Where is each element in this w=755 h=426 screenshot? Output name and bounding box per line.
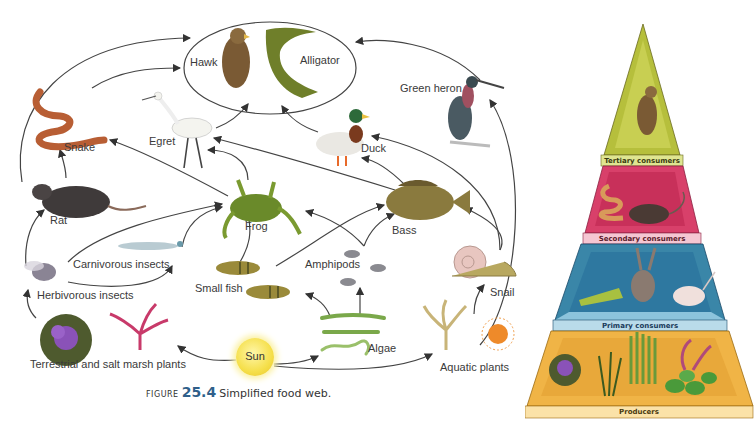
amphipods-label: Amphipods xyxy=(305,258,360,270)
hawk-label: Hawk xyxy=(190,56,218,68)
food-web-diagram: Sun Hawk Alligator Green heron Snake Egr… xyxy=(0,0,530,426)
trophic-pyramid: Tertiary consumers Secondary consumers P… xyxy=(525,0,755,426)
alligator-label: Alligator xyxy=(300,54,340,66)
bass-illustration xyxy=(386,180,470,220)
bass-label: Bass xyxy=(392,224,416,236)
tier-label-producers: Producers xyxy=(525,408,753,416)
aquatic-plants-label: Aquatic plants xyxy=(440,361,509,373)
egret-illustration xyxy=(142,92,212,168)
sun-label: Sun xyxy=(236,350,274,362)
green-heron-label: Green heron xyxy=(400,82,462,94)
terrestrial-plants-label: Terrestrial and salt marsh plants xyxy=(30,358,186,370)
algae-label: Algae xyxy=(368,342,396,354)
frog-label: Frog xyxy=(245,220,268,232)
caption-text: Simplified food web. xyxy=(219,387,331,400)
duck-label: Duck xyxy=(361,142,386,154)
herbivorous-insects-label: Herbivorous insects xyxy=(37,289,134,301)
pyramid-shape xyxy=(525,0,755,426)
duck-illustration xyxy=(316,109,370,166)
tier-label-secondary: Secondary consumers xyxy=(583,235,701,243)
terrestrial-plants-illustration xyxy=(40,304,168,366)
snail-label: Snail xyxy=(490,286,514,298)
carnivorous-insects-label: Carnivorous insects xyxy=(73,258,170,270)
caption-prefix: Figure xyxy=(146,390,179,399)
rat-label: Rat xyxy=(50,214,67,226)
carnivorous-insect-illustration xyxy=(118,241,183,250)
snake-illustration xyxy=(36,92,104,147)
figure-caption: Figure25.4Simplified food web. xyxy=(146,384,331,400)
small-fish-label: Small fish xyxy=(195,282,243,294)
rat-illustration xyxy=(32,184,146,218)
hawk-illustration xyxy=(222,28,250,88)
herbivorous-insect-illustration xyxy=(24,261,56,281)
snake-label: Snake xyxy=(64,141,95,153)
egret-label: Egret xyxy=(149,135,175,147)
sun-node: Sun xyxy=(236,338,274,376)
snail-illustration xyxy=(452,246,516,278)
tier-label-tertiary: Tertiary consumers xyxy=(601,157,683,165)
tier-label-primary: Primary consumers xyxy=(553,322,727,330)
caption-number: 25.4 xyxy=(182,384,217,400)
